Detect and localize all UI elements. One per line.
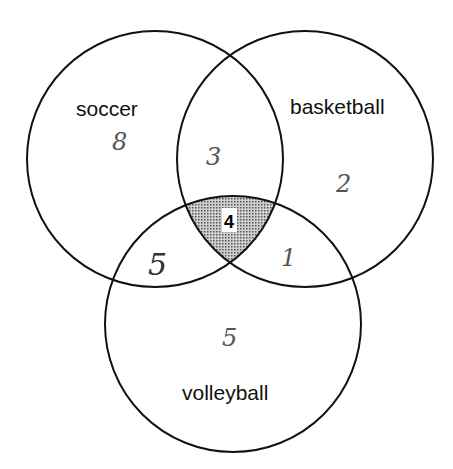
soccer-volleyball-count: 5 <box>148 247 167 282</box>
soccer-only-count: 8 <box>112 128 127 156</box>
basketball-volleyball-count: 1 <box>281 244 296 272</box>
venn-diagram: soccer basketball volleyball 8 2 5 3 5 1… <box>0 0 453 469</box>
basketball-only-count: 2 <box>335 170 351 198</box>
volleyball-label: volleyball <box>182 381 268 404</box>
volleyball-only-count: 5 <box>222 324 237 352</box>
soccer-label: soccer <box>76 97 138 120</box>
all-three-count: 4 <box>224 212 234 232</box>
basketball-label: basketball <box>290 95 385 118</box>
soccer-basketball-count: 3 <box>206 143 221 171</box>
